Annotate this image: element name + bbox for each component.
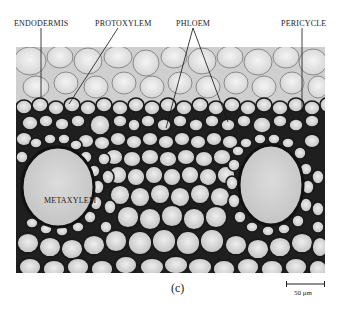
micrograph-image (16, 47, 325, 273)
metaxylem-left (22, 147, 94, 227)
label-protoxylem: PROTOXYLEM (95, 19, 152, 28)
label-metaxylem: METAXYLEM (44, 196, 96, 205)
scale-bar (286, 281, 325, 287)
cell-tissue-illustration (16, 47, 325, 273)
scale-bar-label: 50 μm (294, 289, 312, 297)
label-phloem: PHLOEM (176, 19, 210, 28)
label-pericycle: PERICYCLE (281, 19, 326, 28)
panel-label: (c) (171, 281, 184, 296)
metaxylem-right (239, 145, 303, 225)
label-endodermis: ENDODERMIS (14, 19, 68, 28)
